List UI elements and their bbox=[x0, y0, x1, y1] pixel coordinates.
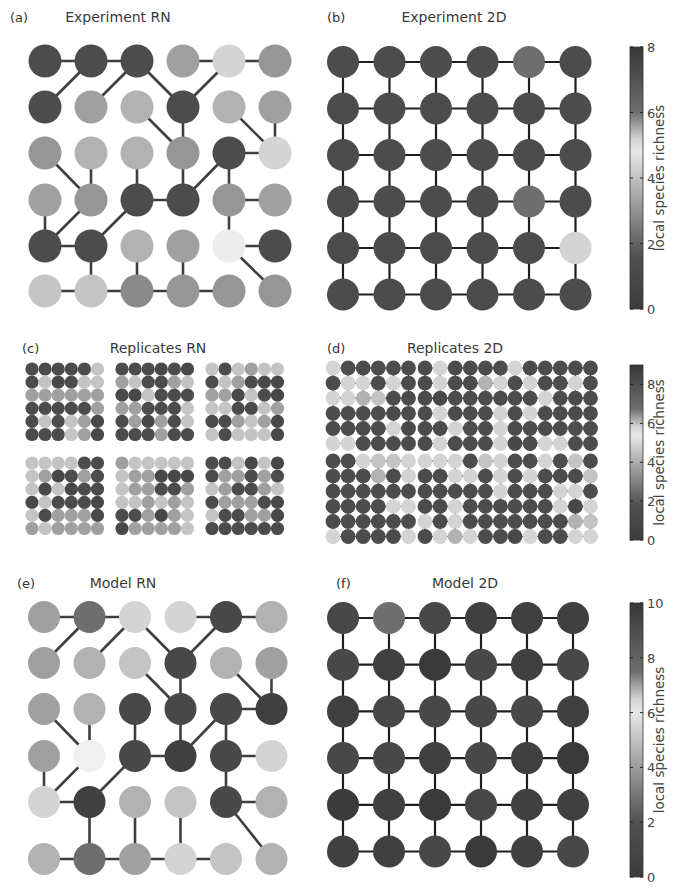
replicate-node bbox=[493, 499, 508, 514]
replicate-node bbox=[258, 376, 271, 389]
replicate-node bbox=[142, 470, 155, 483]
replicate-node bbox=[232, 483, 245, 496]
replicate-node bbox=[418, 436, 433, 451]
replicate-node bbox=[478, 391, 493, 406]
replicate-node bbox=[271, 376, 284, 389]
patch-node bbox=[560, 93, 592, 125]
patch-node bbox=[513, 93, 545, 125]
replicate-node bbox=[371, 391, 386, 406]
replicate-node bbox=[129, 470, 142, 483]
replicate-node bbox=[523, 454, 538, 469]
replicate-node bbox=[583, 361, 598, 376]
replicate-node bbox=[129, 362, 142, 375]
replicate-node bbox=[39, 456, 52, 469]
replicate-node bbox=[65, 496, 78, 509]
replicate-node bbox=[168, 483, 181, 496]
replicate-node bbox=[168, 415, 181, 428]
patch-node bbox=[119, 786, 151, 818]
panel-title-e: Model RN bbox=[90, 575, 157, 591]
replicate-node bbox=[493, 469, 508, 484]
replicate-node bbox=[508, 484, 523, 499]
replicate-node bbox=[386, 484, 401, 499]
replicate-node bbox=[341, 499, 356, 514]
patch-node bbox=[511, 695, 543, 727]
replicate-node bbox=[463, 514, 478, 529]
patch-node bbox=[511, 836, 543, 868]
patch-node bbox=[327, 602, 359, 634]
replicate-node bbox=[448, 406, 463, 421]
colorbar-axis-label: local species richness bbox=[651, 667, 667, 814]
replicate-node bbox=[25, 415, 38, 428]
replicate-node bbox=[523, 514, 538, 529]
patch-node bbox=[513, 232, 545, 264]
replicate-node bbox=[433, 469, 448, 484]
replicate-node bbox=[232, 522, 245, 535]
patch-node bbox=[467, 46, 499, 78]
patch-node bbox=[210, 647, 242, 679]
patch-node bbox=[121, 137, 154, 170]
replicate-node bbox=[205, 522, 218, 535]
patch-node bbox=[74, 786, 106, 818]
replicate-node bbox=[401, 436, 416, 451]
patch-node bbox=[165, 786, 197, 818]
replicate-node bbox=[78, 522, 91, 535]
replicate-node bbox=[493, 391, 508, 406]
replicate-node bbox=[155, 496, 168, 509]
replicate-node bbox=[568, 421, 583, 436]
patch-node bbox=[467, 232, 499, 264]
replicate-node bbox=[448, 361, 463, 376]
replicate-node bbox=[219, 470, 232, 483]
replicate-node bbox=[25, 389, 38, 402]
replicate-node bbox=[568, 469, 583, 484]
replicate-node bbox=[583, 454, 598, 469]
replicate-node bbox=[448, 436, 463, 451]
replicate-node bbox=[583, 436, 598, 451]
replicate-node bbox=[39, 428, 52, 441]
patch-node bbox=[511, 789, 543, 821]
patch-node bbox=[560, 46, 592, 78]
replicate-node bbox=[583, 406, 598, 421]
replicate-node bbox=[168, 362, 181, 375]
replicate-node bbox=[418, 391, 433, 406]
replicate-node bbox=[463, 499, 478, 514]
replicate-node bbox=[52, 376, 65, 389]
replicate-node bbox=[232, 402, 245, 415]
patch-node bbox=[465, 836, 497, 868]
replicate-node bbox=[232, 428, 245, 441]
replicate-node bbox=[448, 484, 463, 499]
replicate-node bbox=[401, 484, 416, 499]
patch-node bbox=[167, 45, 200, 78]
replicate-node bbox=[401, 376, 416, 391]
replicate-node bbox=[508, 454, 523, 469]
patch-node bbox=[29, 184, 62, 217]
replicate-node bbox=[129, 402, 142, 415]
replicate-node bbox=[129, 376, 142, 389]
replicate-node bbox=[448, 376, 463, 391]
replicate-node bbox=[433, 499, 448, 514]
patch-node bbox=[420, 139, 452, 171]
replicate-node bbox=[78, 456, 91, 469]
replicate-node bbox=[258, 456, 271, 469]
replicate-node bbox=[326, 406, 341, 421]
replicate-node bbox=[538, 421, 553, 436]
replicate-node bbox=[371, 361, 386, 376]
replicate-node bbox=[142, 376, 155, 389]
replicate-node bbox=[508, 421, 523, 436]
patch-node bbox=[557, 742, 589, 774]
patch-node bbox=[557, 602, 589, 634]
replicate-node bbox=[142, 402, 155, 415]
colorbar-axis-label: local species richness bbox=[651, 379, 667, 526]
replicate-node bbox=[386, 361, 401, 376]
replicate-node bbox=[219, 509, 232, 522]
replicate-node bbox=[168, 522, 181, 535]
replicate-node bbox=[25, 376, 38, 389]
patch-node bbox=[121, 184, 154, 217]
replicate-node bbox=[478, 421, 493, 436]
patch-node bbox=[420, 186, 452, 218]
replicate-node bbox=[91, 376, 104, 389]
replicate-node bbox=[232, 376, 245, 389]
replicate-node bbox=[245, 483, 258, 496]
replicate-node bbox=[115, 362, 128, 375]
patch-node bbox=[259, 45, 292, 78]
replicate-node bbox=[386, 421, 401, 436]
